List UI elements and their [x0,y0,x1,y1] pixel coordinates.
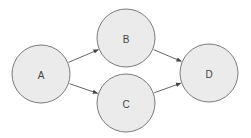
node-c: C [97,74,155,132]
edge-a-c [69,84,97,94]
edge-b-d [154,50,182,62]
edge-c-d [154,83,181,93]
node-a: A [12,45,70,103]
node-d: D [180,44,238,102]
edge-a-b [69,50,99,63]
node-b: B [97,9,155,67]
node-c-label: C [122,99,129,110]
graph-diagram: A B C D [0,0,251,138]
node-a-label: A [38,70,45,81]
node-b-label: B [123,34,130,45]
node-d-label: D [205,69,212,80]
